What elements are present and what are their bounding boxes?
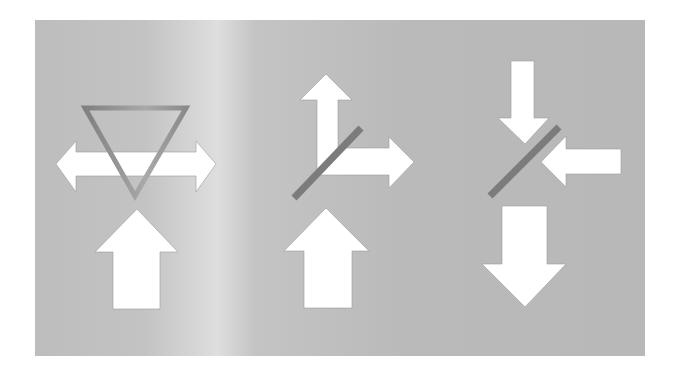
diagram-canvas: Beam splitting and combining [0, 0, 673, 370]
